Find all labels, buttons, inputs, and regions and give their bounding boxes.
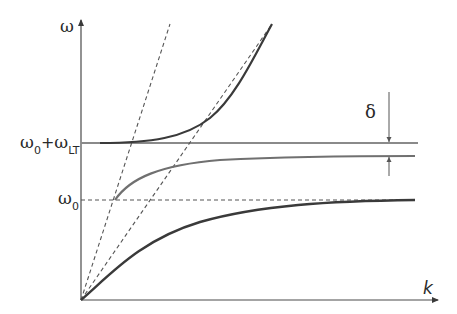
omega0-plus-omegaLT-label: ω0+ωLT — [20, 134, 80, 151]
middle-branch-curve — [115, 156, 415, 200]
omega-symbol: ω — [20, 132, 34, 152]
upper-branch-curve — [100, 24, 272, 143]
subscript-0: 0 — [34, 144, 41, 157]
omega-symbol: ω — [54, 132, 68, 152]
y-axis-label-text: ω — [60, 16, 74, 36]
delta-gap-label: δ — [365, 103, 376, 121]
x-axis-label: k — [423, 280, 433, 297]
steep-light-line — [81, 24, 170, 300]
omega0-label: ω0 — [58, 190, 79, 207]
subscript-0: 0 — [72, 200, 79, 213]
shallow-light-line — [81, 24, 272, 300]
subscript-LT: LT — [68, 144, 79, 157]
plus-operator: + — [41, 133, 54, 152]
x-axis-label-text: k — [423, 278, 433, 298]
y-axis-label: ω — [60, 18, 74, 35]
dispersion-diagram — [0, 0, 457, 314]
omega-symbol: ω — [58, 188, 72, 208]
delta-text: δ — [365, 101, 376, 122]
lower-branch-curve — [81, 200, 415, 300]
